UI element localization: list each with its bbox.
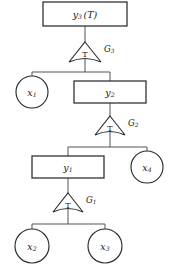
node-y1[interactable]: y1: [32, 156, 104, 178]
transform-g3-subscript: 3: [111, 48, 115, 54]
node-y3-subscript: 3: [78, 13, 82, 20]
node-y3-label: y3(T): [72, 8, 98, 20]
node-x2[interactable]: x2: [15, 229, 49, 263]
node-y3-annotation: (T): [84, 8, 98, 19]
node-y1-subscript: 1: [69, 166, 73, 173]
transform-g3-label: G3: [104, 44, 115, 54]
node-x1[interactable]: x1: [16, 76, 48, 108]
transform-g1-subscript: 1: [93, 199, 97, 205]
node-y2-subscript: 2: [110, 91, 115, 98]
node-x3[interactable]: x3: [88, 229, 122, 263]
transform-g1-inner-label: T: [65, 201, 71, 210]
transform-g2[interactable]: T G2: [95, 116, 139, 135]
node-y2[interactable]: y2: [74, 81, 146, 103]
node-x1-subscript: 1: [33, 91, 37, 98]
transform-g2-label: G2: [128, 118, 139, 128]
edge-group-level-0: [32, 26, 110, 81]
diagram-root: y3(T) T G3 x1 y2 T: [0, 0, 170, 273]
node-y3[interactable]: y3(T): [43, 2, 127, 26]
transform-g1-label: G1: [86, 195, 97, 205]
node-x2-subscript: 2: [32, 245, 37, 252]
transform-g1[interactable]: T G1: [53, 193, 97, 212]
transform-tree-diagram: y3(T) T G3 x1 y2 T: [0, 0, 170, 273]
transform-g2-subscript: 2: [134, 122, 139, 128]
transform-g3-inner-label: T: [82, 50, 88, 59]
node-x3-subscript: 3: [106, 245, 110, 252]
transform-g3[interactable]: T G3: [69, 42, 115, 62]
node-x4-subscript: 4: [147, 166, 152, 173]
node-x4[interactable]: x4: [131, 151, 163, 183]
transform-g2-inner-label: T: [107, 124, 113, 133]
